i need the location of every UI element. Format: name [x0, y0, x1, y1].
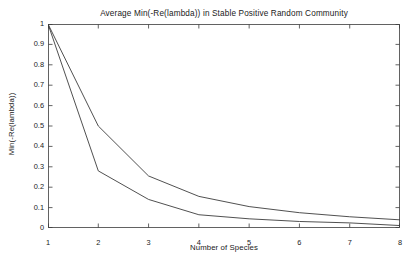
y-tick-label: 0.2 [20, 183, 44, 191]
x-axis-label: Number of Species [48, 243, 400, 253]
y-tick: 0.1 [20, 204, 44, 212]
y-axis-label: Min(-Re(lambda)) [7, 74, 17, 174]
y-tick: 0.7 [20, 81, 44, 89]
y-tick-label: 0.8 [20, 61, 44, 69]
axes-frame [49, 25, 400, 228]
y-tick-label: 0.3 [20, 163, 44, 171]
y-tick-label: 0.7 [20, 81, 44, 89]
plot-area [48, 24, 400, 228]
y-tick: 0.6 [20, 102, 44, 110]
y-tick-label: 0 [20, 224, 44, 232]
y-tick: 0.2 [20, 183, 44, 191]
y-tick-label: 0.1 [20, 204, 44, 212]
y-tick-label: 0.5 [20, 122, 44, 130]
y-tick-label: 0.9 [20, 40, 44, 48]
y-tick: 0.8 [20, 61, 44, 69]
chart-figure: Average Min(-Re(lambda)) in Stable Posit… [0, 0, 419, 265]
y-tick: 0.5 [20, 122, 44, 130]
y-tick: 0.9 [20, 40, 44, 48]
plot-canvas [48, 24, 400, 228]
chart-title: Average Min(-Re(lambda)) in Stable Posit… [48, 9, 400, 19]
y-tick: 0.3 [20, 163, 44, 171]
y-tick-label: 1 [20, 20, 44, 28]
y-tick: 1 [20, 20, 44, 28]
y-tick-label: 0.4 [20, 142, 44, 150]
y-tick: 0.4 [20, 142, 44, 150]
y-tick: 0 [20, 224, 44, 232]
y-tick-label: 0.6 [20, 102, 44, 110]
